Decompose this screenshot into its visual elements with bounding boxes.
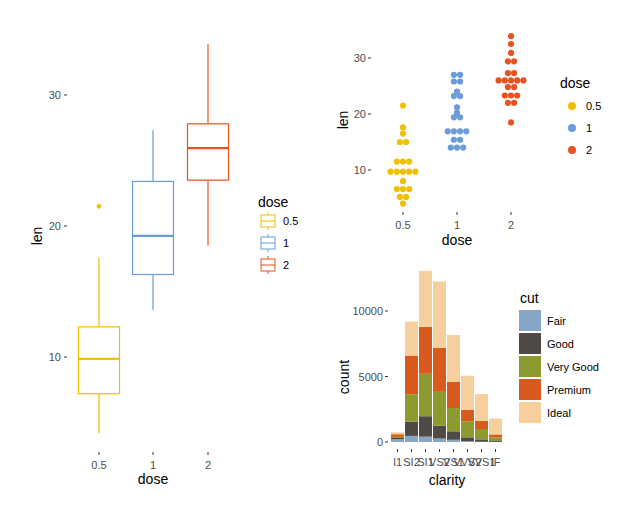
bar-segment-good xyxy=(405,422,418,436)
bar-I1 xyxy=(391,432,404,442)
boxplot-boxes xyxy=(79,44,229,433)
dot xyxy=(406,186,412,192)
dot xyxy=(394,159,400,165)
legend-label: 0.5 xyxy=(283,215,298,227)
dot xyxy=(511,100,517,106)
legend-swatch-fair xyxy=(519,310,541,331)
bar-segment-ideal xyxy=(419,271,432,327)
dot xyxy=(505,58,511,64)
bar-segment-very-good xyxy=(391,437,404,438)
bar-segment-fair xyxy=(447,440,460,442)
figure: 102030 0.512 dose len dose 0.512 102030 … xyxy=(0,0,633,517)
dot xyxy=(505,70,511,76)
dot xyxy=(508,77,514,83)
dot xyxy=(394,186,400,192)
bar-segment-premium xyxy=(475,421,488,429)
dotplot-x-title: dose xyxy=(442,232,473,248)
dot xyxy=(406,159,412,165)
dot xyxy=(388,169,394,175)
bar-segment-ideal xyxy=(489,419,502,435)
dot xyxy=(400,186,406,192)
bar-segment-very-good xyxy=(447,408,460,431)
box-rect xyxy=(79,327,120,394)
dotplot-x-axis: 0.512 xyxy=(395,212,514,231)
dot xyxy=(457,128,463,134)
dot xyxy=(520,77,526,83)
dot-stack-1 xyxy=(445,72,470,151)
y-tick-label: 5000 xyxy=(359,371,383,383)
dot xyxy=(400,201,406,207)
bar-segment-premium xyxy=(405,356,418,395)
dot xyxy=(505,100,511,106)
legend-swatch-premium xyxy=(519,379,541,400)
bar-VS2 xyxy=(433,281,446,442)
dot xyxy=(514,77,520,83)
legend-label: Fair xyxy=(547,315,566,327)
bar-segment-fair xyxy=(391,439,404,442)
bar-segment-good xyxy=(433,426,446,439)
dot xyxy=(451,114,457,120)
stacked-bar-panel: 0500010000 I1SI2SI1VS2VS1VVS2VVS1IF clar… xyxy=(336,271,599,488)
dot xyxy=(457,78,463,84)
dot xyxy=(454,104,460,110)
bar-segment-premium xyxy=(461,410,474,421)
dotplot-legend-title: dose xyxy=(560,75,591,91)
dot xyxy=(454,145,460,151)
bar-segment-good xyxy=(489,441,502,442)
bar-segment-good xyxy=(447,431,460,439)
bar-segment-ideal xyxy=(433,281,446,347)
legend-label: 0.5 xyxy=(586,100,601,112)
dot xyxy=(412,169,418,175)
dotplot-y-axis: 102030 xyxy=(354,52,371,176)
bar-segment-very-good xyxy=(433,392,446,426)
dot xyxy=(403,139,409,145)
dot xyxy=(457,93,463,99)
bar-segment-premium xyxy=(433,348,446,392)
boxplot-legend: dose 0.512 xyxy=(258,194,298,274)
dot xyxy=(502,92,508,98)
dot xyxy=(511,58,517,64)
x-tick-label: IF xyxy=(491,456,501,468)
dotplot-dots xyxy=(388,33,527,207)
outlier-point xyxy=(97,204,102,209)
y-tick-label: 30 xyxy=(49,89,61,101)
bar-segment-fair xyxy=(461,441,474,442)
bar-stacks xyxy=(391,271,502,442)
legend-label: Very Good xyxy=(547,361,599,373)
dot xyxy=(508,119,514,125)
bar-legend: cut FairGoodVery GoodPremiumIdeal xyxy=(519,290,599,423)
legend-swatch-good xyxy=(519,333,541,354)
legend-label: Good xyxy=(547,338,574,350)
legend-swatch-ideal xyxy=(519,402,541,423)
bar-segment-ideal xyxy=(391,432,404,434)
dot xyxy=(400,169,406,175)
y-tick-label: 30 xyxy=(354,52,366,64)
legend-label: 1 xyxy=(283,237,289,249)
x-tick-label: 2 xyxy=(205,459,211,471)
bar-SI1 xyxy=(419,271,432,442)
bar-IF xyxy=(489,419,502,442)
dot xyxy=(451,72,457,78)
dot xyxy=(502,77,508,83)
dot xyxy=(400,103,406,109)
dot xyxy=(400,178,406,184)
bar-VVS2 xyxy=(461,376,474,442)
bar-VVS1 xyxy=(475,394,488,442)
bar-segment-ideal xyxy=(405,322,418,356)
legend-dot-0.5 xyxy=(568,102,576,110)
box-rect xyxy=(133,181,174,274)
bar-x-title: clarity xyxy=(429,472,466,488)
bar-segment-very-good xyxy=(405,394,418,422)
dot xyxy=(505,84,511,90)
dot xyxy=(397,139,403,145)
dot xyxy=(508,50,514,56)
x-tick-label: 0.5 xyxy=(91,459,106,471)
box-0.5 xyxy=(79,204,120,433)
bar-segment-good xyxy=(461,437,474,441)
bar-y-axis: 0500010000 xyxy=(352,305,388,448)
bar-segment-good xyxy=(391,438,404,439)
legend-label: 1 xyxy=(586,122,592,134)
dot xyxy=(508,92,514,98)
box-rect xyxy=(188,124,229,180)
dotplot-y-title: len xyxy=(335,111,351,130)
